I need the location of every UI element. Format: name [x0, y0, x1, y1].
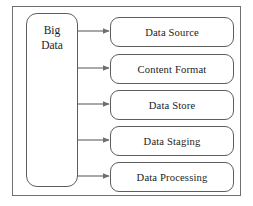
diagram-canvas: Big Data Data Source Content Format Data… [0, 0, 253, 206]
node-big-data[interactable]: Big Data [26, 13, 78, 187]
node-data-staging[interactable]: Data Staging [110, 126, 234, 156]
node-data-processing[interactable]: Data Processing [110, 162, 234, 192]
node-data-source-label: Data Source [145, 27, 199, 38]
node-content-format-label: Content Format [138, 64, 207, 75]
node-data-store[interactable]: Data Store [110, 90, 234, 120]
node-data-source[interactable]: Data Source [110, 17, 234, 47]
node-data-processing-label: Data Processing [137, 172, 208, 183]
node-content-format[interactable]: Content Format [110, 54, 234, 84]
node-data-store-label: Data Store [149, 100, 196, 111]
node-big-data-label-line-1: Big [44, 23, 61, 38]
node-big-data-label-line-2: Data [41, 38, 63, 53]
node-data-staging-label: Data Staging [144, 136, 201, 147]
